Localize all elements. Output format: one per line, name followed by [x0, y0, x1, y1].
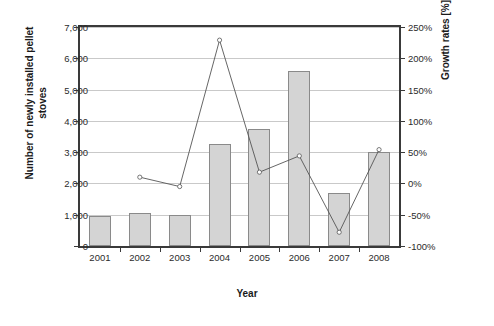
right-tick-label: 50% [408, 147, 468, 158]
x-axis-title: Year [0, 288, 494, 299]
right-tick-mark [401, 183, 405, 184]
left-tick-mark [74, 152, 78, 153]
right-tick-label: 100% [408, 115, 468, 126]
right-tick-label: 250% [408, 22, 468, 33]
left-tick-mark [74, 121, 78, 122]
left-tick-label: 6,000 [28, 53, 88, 64]
left-tick-mark [74, 246, 78, 247]
growth-rate-line [140, 40, 379, 232]
right-tick-mark [401, 90, 405, 91]
line-marker[interactable]: 2003: -5% [178, 184, 182, 188]
right-tick-label: 200% [408, 53, 468, 64]
left-tick-mark [74, 215, 78, 216]
left-tick-label: 3,000 [28, 147, 88, 158]
line-marker[interactable]: 2007: -78% [337, 230, 341, 234]
line-marker[interactable]: 2005: 18% [257, 170, 261, 174]
right-tick-label: 150% [408, 84, 468, 95]
right-tick-label: -50% [408, 209, 468, 220]
chart-container: Number of newly installed pellet stoves … [0, 0, 494, 326]
left-tick-label: 4,000 [28, 115, 88, 126]
left-tick-mark [74, 183, 78, 184]
right-tick-mark [401, 27, 405, 28]
line-marker[interactable]: 2002: 10% [138, 175, 142, 179]
x-tick-label: 2008 [349, 252, 409, 263]
right-tick-mark [401, 121, 405, 122]
left-tick-mark [74, 27, 78, 28]
left-tick-mark [74, 58, 78, 59]
left-tick-label: 0 [28, 241, 88, 252]
right-tick-label: -100% [408, 241, 468, 252]
left-tick-label: 1,000 [28, 209, 88, 220]
line-marker[interactable]: 2008: 54% [377, 148, 381, 152]
right-tick-mark [401, 246, 405, 247]
line-series: 2002: 10%2003: -5%2004: 229%2005: 18%200… [0, 0, 494, 326]
right-tick-mark [401, 58, 405, 59]
right-tick-label: 0% [408, 178, 468, 189]
right-tick-mark [401, 215, 405, 216]
left-tick-label: 2,000 [28, 178, 88, 189]
left-tick-label: 5,000 [28, 84, 88, 95]
line-marker[interactable]: 2006: 44% [297, 154, 301, 158]
right-tick-mark [401, 152, 405, 153]
left-tick-mark [74, 90, 78, 91]
line-marker[interactable]: 2004: 229% [217, 38, 221, 42]
left-tick-label: 7,000 [28, 22, 88, 33]
